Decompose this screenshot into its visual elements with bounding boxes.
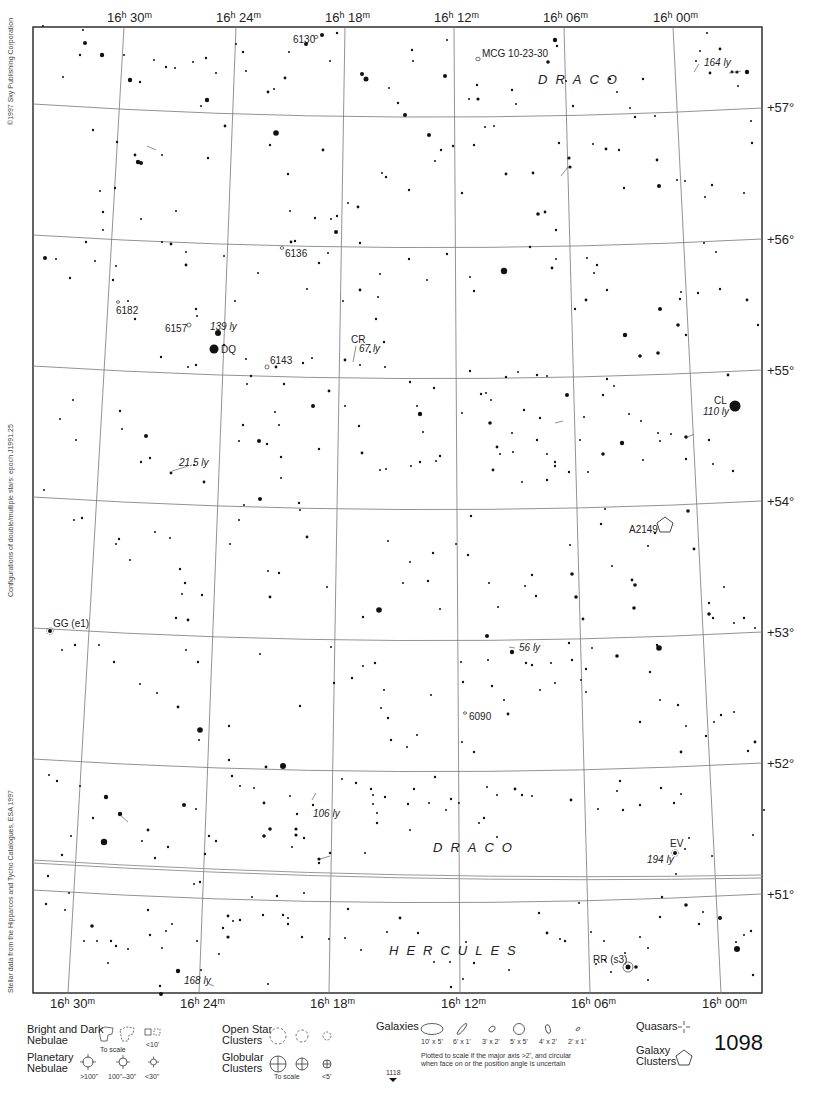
star-icon [434,160,436,162]
star-icon [685,334,687,336]
star-icon [245,70,247,72]
star-icon [462,978,464,980]
star-icon [402,582,404,584]
star-icon [388,87,390,89]
star-icon [507,713,510,716]
star-icon [267,91,270,94]
star-icon [658,307,662,311]
star-icon [43,489,45,491]
star-icon [296,813,298,815]
star-icon [600,523,602,525]
star-icon [289,795,291,797]
star-icon [134,318,136,320]
star-icon [253,787,255,789]
ra-label-bottom-1612: 16h 12m [441,996,486,1011]
star-icon [546,60,550,64]
svg-text:5' x 5': 5' x 5' [510,1038,528,1045]
star-icon [449,961,451,963]
star-icon [639,936,641,938]
star-icon [693,548,696,551]
svg-text:6136: 6136 [285,248,308,259]
galaxy-cluster-a2149[interactable]: A2149 [629,517,673,535]
star-icon [615,654,619,658]
svg-text:when face on or the position a: when face on or the position angle is un… [420,1060,565,1068]
star-icon [619,780,621,782]
star-icon [620,441,624,445]
variable-star-gg[interactable]: GG (e1) [47,618,90,635]
star-icon [364,852,366,854]
star-icon [115,265,117,267]
star-icon [165,66,167,68]
star-icon [544,211,547,214]
star-icon [558,142,560,144]
galaxy-6090[interactable]: 6090 [463,711,491,722]
star-icon [697,292,699,294]
svg-text:To scale: To scale [274,1073,300,1080]
star-icon [185,649,187,651]
star-icon [234,300,236,302]
star-icon [102,211,104,213]
star-icon [174,67,176,69]
galaxy-6182[interactable]: 6182 [116,301,139,316]
star-icon [659,440,661,442]
star-icon [160,356,162,358]
star-icon [567,156,570,159]
star-icon [114,187,116,189]
dec-label-51: +51° [767,887,794,902]
star-icon [344,405,346,407]
star-icon [222,927,224,929]
star-icon [257,272,259,274]
galaxy-mcg-10-23-30[interactable]: MCG 10-23-30 [476,48,549,61]
star-icon [491,685,493,687]
star-icon [521,481,523,483]
star-icon [521,794,523,796]
star-icon [326,586,328,588]
star-icon [523,409,525,411]
star-icon [718,916,722,920]
ra-label-bottom-1630: 16h 30m [50,996,95,1011]
galaxy-6143[interactable]: 6143 [265,355,293,369]
variable-star-dq[interactable]: DQ [210,330,237,355]
star-icon [298,502,300,504]
star-icon [461,412,463,414]
planetary-nebula-icon-large [80,1054,96,1070]
star-icon [640,420,642,422]
constellation-label-draco-top: DRACO [538,72,625,87]
star-icon [195,308,197,310]
star-icon [499,453,501,455]
star-icon [525,662,527,664]
star-icon [511,432,513,434]
star-icon [564,940,566,942]
star-icon [232,920,234,922]
galaxy-6136[interactable]: 6136 [280,247,307,259]
star-icon [129,559,131,561]
star-icon [492,469,495,472]
legend-planetary-nebulae: Planetary Nebulae >100" 100"–30" <30" [27,1051,160,1080]
star-icon [497,606,499,608]
star-icon [322,149,325,152]
galaxy-6130[interactable]: 6130 [293,34,318,45]
star-icon [318,448,320,450]
star-icon [602,394,604,396]
star-icon [330,646,332,648]
star-icon [318,862,320,864]
star-icon [362,616,364,618]
star-icon [112,279,114,281]
star-icon [288,51,290,53]
star-icon [763,809,765,811]
star-icon [208,835,210,837]
adjacent-page-link[interactable]: 1118 [386,1069,401,1082]
variable-star-rr[interactable]: RR (s3) [593,954,633,972]
star-icon [708,439,710,441]
star-icon [680,751,683,754]
star-icon [585,691,587,693]
star-icon [419,461,421,463]
ra-label-1600: 16h 00m [653,10,698,25]
dec-line-51 [33,890,762,903]
variable-stars: DQ CR CL GG (e1) EV RR (s3) [47,330,741,972]
star-icon [473,144,475,146]
star-icon [616,91,618,93]
star-icon [698,923,700,925]
galaxy-6157[interactable]: 6157 [165,323,191,334]
star-icon [488,421,492,425]
